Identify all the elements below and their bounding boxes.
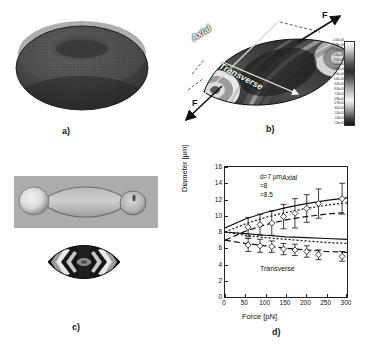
stress-colorbar [344,41,355,126]
y-tick-4: 8 [218,228,222,235]
y-tickmark [225,297,228,298]
legend-label-0: d=7 µm [260,173,282,180]
x-tick-6: 300 [341,299,352,306]
colorbar-tick-3: 1.65e+00 [334,55,344,58]
x-tick-1: 50 [241,299,248,306]
x-tickmark [225,294,226,297]
x-tickmark [306,294,307,297]
torus-svg [8,10,158,122]
y-tick-7: 14 [215,179,222,186]
microscopy-image [14,176,158,228]
force-label-bottom: F [192,98,198,108]
series-line-5 [225,240,347,252]
panel-label-a: a) [62,126,70,136]
x-tick-5: 250 [320,299,331,306]
x-tickmark [245,294,246,297]
y-tick-3: 6 [218,244,222,251]
panel-label-b: b) [266,124,275,134]
colorbar-tick-11: 7.13e-01 [334,94,344,97]
y-tickmark [225,265,228,266]
y-tickmark [225,183,228,184]
microscopy-svg [14,176,158,228]
colorbar-tick-16: 1.28e-01 [334,118,344,121]
x-tickmark [327,294,328,297]
y-tick-5: 10 [215,211,222,218]
colorbar-tick-labels: 2.00e+001.88e+001.77e+001.65e+001.53e+00… [322,40,344,126]
y-tickmark [225,167,228,168]
colorbar-tick-10: 8.30e-01 [334,89,344,92]
x-tick-2: 100 [259,299,270,306]
x-axis-label: Force [pN] [242,312,277,321]
colorbar-tick-7: 1.18e+00 [334,74,344,77]
y-tick-8: 16 [215,163,222,170]
x-tick-3: 150 [280,299,291,306]
y-tick-labels: 0246810121416 [202,166,222,296]
x-tick-0: 0 [222,299,226,306]
x-tickmark [346,294,347,297]
colorbar-tick-0: 2.00e+00 [334,40,344,43]
panel-c: c) [8,176,178,344]
legend-label-2: =8.5 [260,191,273,198]
legend-item-1: =8 [232,181,300,190]
annotation-axial: Axial [282,174,297,181]
colorbar-tick-17: 1.00e-02 [334,123,344,126]
figure-root: a) [0,0,366,346]
y-axis-label: Diameter [µm] [180,145,189,192]
y-tickmark [225,281,228,282]
panel-label-d: d) [272,327,281,337]
colorbar-tick-5: 1.42e+00 [334,64,344,67]
panel-label-c: c) [72,322,80,332]
colorbar-tick-15: 2.45e-01 [334,113,344,116]
x-tickmark [266,294,267,297]
legend-item-2: =8.5 [232,190,300,199]
torus-mesh-render [8,10,158,122]
y-tickmark [225,200,228,201]
series-points-1 [245,239,345,262]
x-tickmark [286,294,287,297]
colorbar-tick-2: 1.77e+00 [334,50,344,53]
y-tick-1: 2 [218,276,222,283]
y-tickmark [225,232,228,233]
annotation-transverse: Transverse [260,265,295,272]
simulation-contour-image [44,238,124,286]
colorbar-tick-6: 1.30e+00 [334,69,344,72]
x-tick-4: 200 [300,299,311,306]
colorbar-tick-14: 3.62e-01 [334,108,344,111]
force-label-top: F [322,10,328,20]
y-tickmark [225,216,228,217]
colorbar-tick-13: 4.79e-01 [334,103,344,106]
colorbar-tick-1: 1.88e+00 [334,45,344,48]
y-tick-6: 12 [215,195,222,202]
panel-a: a) [8,6,168,146]
y-tick-2: 4 [218,260,222,267]
colorbar-tick-9: 9.47e-01 [334,84,344,87]
series-line-7 [225,232,347,239]
simulation-svg [44,238,124,286]
colorbar-tick-4: 1.53e+00 [334,60,344,63]
y-tickmark [225,248,228,249]
colorbar-tick-8: 1.06e+00 [334,79,344,82]
legend-label-1: =8 [260,182,267,189]
x-tick-labels: 050100150200250300 [224,299,346,311]
colorbar-tick-12: 5.96e-01 [334,99,344,102]
panel-d: Diameter [µm] Force [pN] 0246810121416 0… [186,152,366,346]
